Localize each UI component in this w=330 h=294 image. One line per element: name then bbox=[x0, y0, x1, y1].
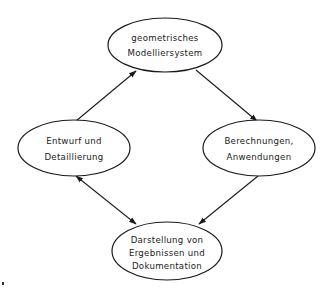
node-right-line-1: Berechnungen, bbox=[224, 136, 293, 146]
node-left-ellipse bbox=[18, 120, 130, 176]
node-results-and-documentation: Darstellung von Ergebnissen und Dokument… bbox=[112, 222, 222, 280]
node-top-line-2: Modelliersystem bbox=[128, 48, 203, 58]
edge-left-bottom-bidirectional bbox=[76, 176, 136, 224]
node-top-line-1: geometrisches bbox=[131, 33, 198, 43]
node-left-line-1: Entwurf und bbox=[46, 136, 102, 146]
node-top-ellipse bbox=[108, 18, 222, 72]
node-right-line-2: Anwendungen bbox=[227, 152, 292, 162]
scan-artifact-mark bbox=[2, 282, 4, 285]
diagram-canvas: geometrisches Modelliersystem Entwurf un… bbox=[0, 0, 330, 294]
node-geometric-modeling-system: geometrisches Modelliersystem bbox=[108, 18, 222, 72]
edge-right-to-bottom bbox=[199, 176, 258, 224]
node-design-and-detailing: Entwurf und Detaillierung bbox=[18, 120, 130, 176]
node-right-ellipse bbox=[203, 120, 315, 176]
node-bottom-line-1: Darstellung von bbox=[131, 235, 204, 245]
node-calculations-applications: Berechnungen, Anwendungen bbox=[203, 120, 315, 176]
edge-left-to-top bbox=[76, 71, 136, 121]
edge-top-to-right bbox=[196, 70, 257, 121]
node-left-line-2: Detaillierung bbox=[44, 152, 103, 162]
node-bottom-line-2: Ergebnissen und bbox=[129, 248, 205, 258]
node-bottom-line-3: Dokumentation bbox=[132, 261, 202, 271]
